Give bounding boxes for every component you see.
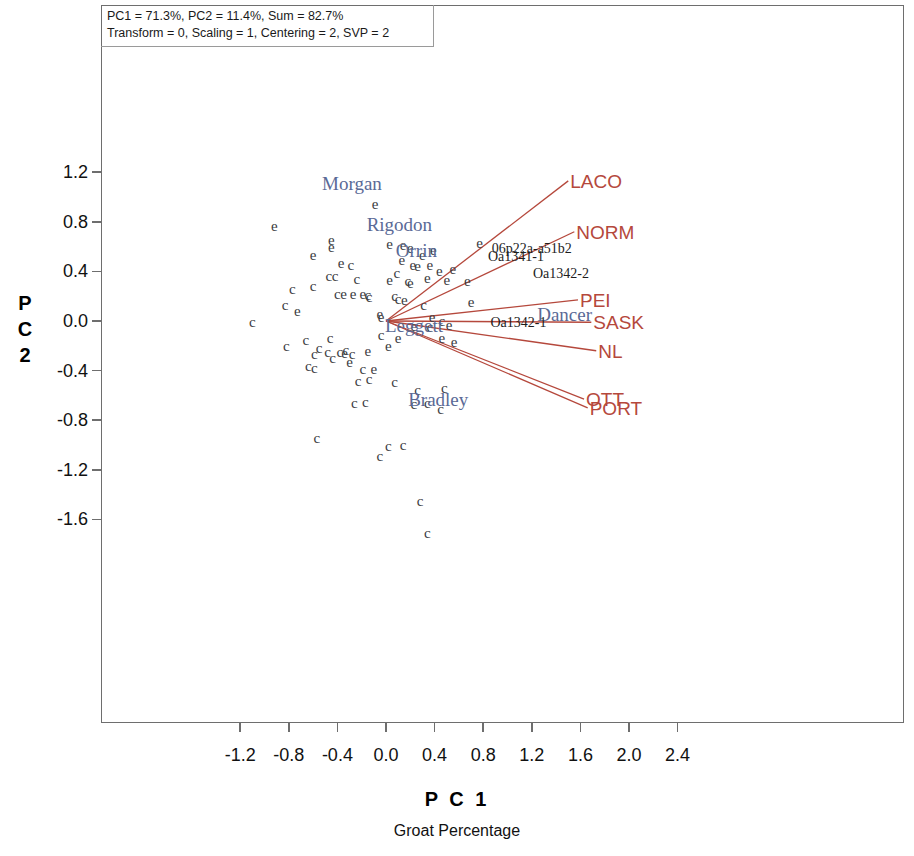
x-axis-tick bbox=[337, 723, 339, 732]
x-axis-tick bbox=[628, 723, 630, 732]
scatter-point: e bbox=[338, 255, 345, 270]
scatter-point: e bbox=[294, 304, 301, 319]
annotation-line-1: PC1 = 71.3%, PC2 = 11.4%, Sum = 82.7% bbox=[107, 8, 433, 25]
y-axis-tick-label: -1.2 bbox=[57, 459, 88, 480]
scatter-point: e bbox=[443, 273, 450, 288]
scatter-point: e bbox=[350, 286, 357, 301]
genotype-label: Orrin bbox=[396, 241, 437, 260]
scatter-point: c bbox=[366, 290, 373, 305]
y-axis-title-char: P bbox=[8, 290, 42, 316]
x-axis-tick-label: 1.6 bbox=[568, 745, 593, 766]
annotation-line-2: Transform = 0, Scaling = 1, Centering = … bbox=[107, 25, 433, 42]
scatter-point: c bbox=[302, 332, 309, 347]
scatter-point: c bbox=[310, 279, 317, 294]
x-axis-tick-label: 2.4 bbox=[665, 745, 690, 766]
scatter-point: c bbox=[385, 439, 392, 454]
scatter-point: e bbox=[372, 197, 379, 212]
y-axis-title-char: C bbox=[8, 316, 42, 342]
x-axis-tick-label: 0.0 bbox=[373, 745, 398, 766]
scatter-point: c bbox=[400, 438, 407, 453]
scatter-point: c bbox=[378, 327, 385, 342]
scatter-point: e bbox=[386, 273, 393, 288]
y-axis-title-char: 2 bbox=[8, 342, 42, 368]
plot-frame bbox=[101, 5, 904, 723]
scatter-point: e bbox=[386, 237, 393, 252]
scatter-point: c bbox=[282, 297, 289, 312]
y-axis-tick-label: 0.0 bbox=[63, 311, 88, 332]
scatter-point: e bbox=[436, 264, 443, 279]
scatter-point: e bbox=[340, 286, 347, 301]
scatter-point: e bbox=[446, 317, 453, 332]
scatter-point: c bbox=[311, 361, 318, 376]
x-axis-tick bbox=[580, 723, 582, 732]
x-axis-tick-label: -0.4 bbox=[322, 745, 353, 766]
x-axis-tick-label: 0.4 bbox=[422, 745, 447, 766]
scatter-point: c bbox=[313, 430, 320, 445]
environment-vector-label: SASK bbox=[593, 313, 644, 332]
scatter-point: c bbox=[391, 374, 398, 389]
scatter-point: c bbox=[420, 297, 427, 312]
scatter-point: e bbox=[464, 274, 471, 289]
genotype-label: Morgan bbox=[322, 174, 382, 193]
scatter-point: c bbox=[424, 526, 431, 541]
y-axis-tick bbox=[92, 469, 101, 471]
y-axis-tick-label: 0.4 bbox=[63, 261, 88, 282]
scatter-point: e bbox=[346, 354, 353, 369]
scatter-point: e bbox=[468, 295, 475, 310]
x-axis-tick-label: 2.0 bbox=[616, 745, 641, 766]
genotype-label: Rigodon bbox=[367, 215, 432, 234]
genotype-label: Bradley bbox=[408, 390, 468, 409]
x-axis-tick bbox=[385, 723, 387, 732]
environment-vector-label: NL bbox=[598, 341, 622, 360]
scatter-point: e bbox=[310, 248, 317, 263]
sample-label: Oa1341-1 bbox=[488, 250, 544, 264]
x-axis-subtitle: Groat Percentage bbox=[0, 822, 914, 840]
y-axis-tick-label: -0.8 bbox=[57, 410, 88, 431]
genotype-label: Leggett bbox=[385, 315, 443, 334]
x-axis-tick-label: 0.8 bbox=[471, 745, 496, 766]
y-axis-tick-label: 1.2 bbox=[63, 162, 88, 183]
x-axis-tick bbox=[677, 723, 679, 732]
y-axis-tick bbox=[92, 519, 101, 521]
annotation-box: PC1 = 71.3%, PC2 = 11.4%, Sum = 82.7% Tr… bbox=[101, 5, 434, 47]
x-axis-tick-label: 1.2 bbox=[519, 745, 544, 766]
y-axis-tick-label: 0.8 bbox=[63, 211, 88, 232]
y-axis-tick-label: -0.4 bbox=[57, 360, 88, 381]
biplot-figure: eeeeeeccccccceeeccceeeceeeeeeeeeceeeceee… bbox=[0, 0, 914, 856]
scatter-point: c bbox=[353, 271, 360, 286]
scatter-point: e bbox=[476, 235, 483, 250]
y-axis-tick bbox=[92, 370, 101, 372]
sample-label: Oa1342-2 bbox=[533, 267, 589, 281]
y-axis-tick bbox=[92, 320, 101, 322]
environment-vector-label: NORM bbox=[576, 222, 634, 241]
scatter-point: e bbox=[401, 292, 408, 307]
x-axis-tick bbox=[288, 723, 290, 732]
scatter-point: c bbox=[377, 449, 384, 464]
environment-vector-label: LACO bbox=[570, 171, 622, 190]
x-axis-tick bbox=[239, 723, 241, 732]
scatter-point: c bbox=[329, 351, 336, 366]
scatter-point: e bbox=[378, 310, 385, 325]
scatter-point: e bbox=[364, 343, 371, 358]
scatter-point: c bbox=[394, 265, 401, 280]
scatter-point: c bbox=[355, 373, 362, 388]
x-axis-tick-label: -0.8 bbox=[273, 745, 304, 766]
scatter-point: c bbox=[332, 269, 339, 284]
y-axis-tick bbox=[92, 419, 101, 421]
scatter-point: c bbox=[417, 493, 424, 508]
sample-label: Oa1342-1 bbox=[490, 316, 546, 330]
scatter-point: e bbox=[449, 261, 456, 276]
x-axis-tick bbox=[531, 723, 533, 732]
y-axis-tick bbox=[92, 271, 101, 273]
scatter-point: c bbox=[366, 372, 373, 387]
scatter-point: e bbox=[424, 270, 431, 285]
x-axis-tick bbox=[434, 723, 436, 732]
scatter-point: e bbox=[451, 335, 458, 350]
y-axis-tick-label: -1.6 bbox=[57, 509, 88, 530]
scatter-point: c bbox=[249, 315, 256, 330]
scatter-point: e bbox=[271, 218, 278, 233]
scatter-point: c bbox=[351, 395, 358, 410]
x-axis-tick bbox=[482, 723, 484, 732]
scatter-point: e bbox=[407, 275, 414, 290]
scatter-point: c bbox=[362, 394, 369, 409]
